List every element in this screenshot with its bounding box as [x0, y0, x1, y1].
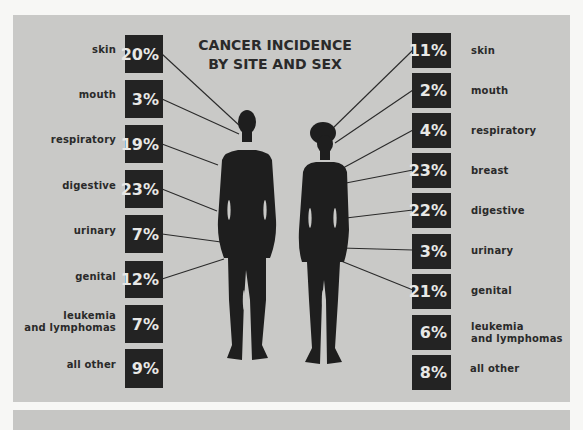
male-value-urinary: 7%	[125, 215, 163, 253]
female-silhouette	[299, 122, 349, 364]
female-value-all-other: 8%	[412, 355, 451, 390]
label-line-1: leukemia	[6, 310, 116, 322]
female-label-respiratory: respiratory	[471, 125, 583, 137]
male-value-digestive: 23%	[125, 170, 163, 208]
label-line-2: and lymphomas	[6, 322, 116, 334]
female-label-all-other: all other	[470, 363, 583, 375]
female-label-digestive: digestive	[471, 205, 583, 217]
female-label-urinary: urinary	[471, 245, 583, 257]
male-label-respiratory: respiratory	[6, 134, 116, 146]
male-value-leukemia: 7%	[125, 305, 163, 343]
male-label-genital: genital	[6, 271, 116, 283]
male-label-leukemia: leukemia and lymphomas	[6, 310, 116, 334]
female-value-skin: 11%	[412, 33, 451, 68]
male-value-genital: 12%	[125, 261, 163, 298]
male-label-urinary: urinary	[6, 225, 116, 237]
male-label-all-other: all other	[6, 359, 116, 371]
male-silhouette	[218, 110, 276, 360]
female-label-breast: breast	[471, 165, 583, 177]
female-label-leukemia: leukemia and lymphomas	[471, 321, 583, 345]
male-label-mouth: mouth	[6, 89, 116, 101]
male-label-skin: skin	[6, 44, 116, 56]
female-value-respiratory: 4%	[412, 113, 451, 148]
male-value-skin: 20%	[125, 35, 163, 73]
male-value-mouth: 3%	[125, 80, 163, 118]
male-label-digestive: digestive	[6, 180, 116, 192]
female-value-leukemia: 6%	[412, 315, 451, 350]
female-value-mouth: 2%	[412, 73, 451, 108]
male-value-respiratory: 19%	[125, 125, 163, 163]
female-value-breast: 23%	[412, 153, 451, 188]
label-line-1: leukemia	[471, 321, 583, 333]
female-label-skin: skin	[471, 45, 583, 57]
female-value-urinary: 3%	[412, 234, 451, 269]
female-label-mouth: mouth	[471, 85, 583, 97]
female-value-digestive: 22%	[412, 193, 451, 228]
female-value-genital: 21%	[412, 274, 451, 309]
female-label-genital: genital	[471, 285, 583, 297]
male-value-all-other: 9%	[125, 349, 163, 388]
label-line-2: and lymphomas	[471, 333, 583, 345]
